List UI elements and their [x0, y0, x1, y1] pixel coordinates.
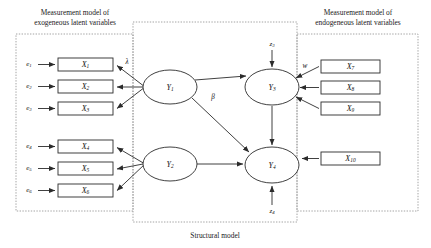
svg-text:e6: e6	[26, 186, 32, 194]
sem-path-diagram: Measurement model of exogeneous latent v…	[0, 0, 431, 248]
edge-y1-to-y3	[195, 76, 246, 80]
observed-box-x9[interactable]: X9	[321, 102, 380, 115]
title-exogenous-line2: exogeneous latent variables	[34, 18, 116, 27]
edges-y1-loadings	[117, 66, 145, 109]
label-e2-sub: 2	[29, 85, 32, 90]
edges-y2-loadings	[117, 148, 145, 191]
edges-error-to-indicator	[38, 65, 55, 191]
label-x2-sub: 2	[87, 85, 90, 91]
edge-y2-to-x4	[117, 148, 145, 165]
svg-text:z4: z4	[268, 207, 275, 215]
latent-ellipse-y3[interactable]: Y3	[245, 69, 299, 105]
label-x1-sub: 1	[87, 63, 90, 69]
edge-y1-to-x1	[117, 66, 145, 88]
observed-variable-boxes: X1 X2 X3 X4 X5 X6	[58, 58, 380, 197]
latent-ellipse-y2[interactable]: Y2	[143, 147, 197, 181]
label-x3-sub: 3	[86, 107, 90, 113]
observed-box-x7[interactable]: X7	[321, 60, 380, 73]
edge-x7-to-y3	[296, 67, 319, 79]
edge-x9-to-y3	[296, 97, 319, 109]
label-x9-sub: 9	[352, 107, 355, 113]
label-e3-sub: 3	[29, 107, 32, 112]
label-y3-sub: 3	[272, 86, 276, 92]
latent-ellipse-y1[interactable]: Y1	[143, 70, 197, 104]
svg-text:e4: e4	[26, 142, 32, 150]
observed-box-x6[interactable]: X6	[58, 184, 113, 197]
label-e5-sub: 5	[29, 167, 32, 172]
label-y2-sub: 2	[171, 163, 174, 169]
label-z4-sub: 4	[272, 210, 275, 215]
observed-box-x10[interactable]: X10	[321, 152, 380, 165]
label-e6-sub: 6	[29, 189, 32, 194]
region-titles: Measurement model of exogeneous latent v…	[34, 8, 401, 240]
observed-box-x4[interactable]: X4	[58, 140, 113, 153]
observed-box-x1[interactable]: X1	[58, 58, 113, 71]
label-w-coefficient: w	[303, 62, 308, 70]
edge-y1-to-x3	[117, 87, 145, 109]
label-x5-sub: 5	[87, 167, 90, 173]
observed-box-x2[interactable]: X2	[58, 80, 113, 93]
edges-endogenous-indicators	[296, 67, 319, 159]
observed-box-x3[interactable]: X3	[58, 102, 113, 115]
label-x7-sub: 7	[352, 65, 355, 71]
title-exogenous-line1: Measurement model of	[41, 8, 110, 17]
observed-box-x5[interactable]: X5	[58, 162, 113, 175]
label-x8-sub: 8	[352, 86, 355, 92]
label-y1-sub: 1	[171, 86, 174, 92]
label-z3-sub: 3	[272, 43, 275, 48]
observed-box-x8[interactable]: X8	[321, 81, 380, 94]
svg-text:e1: e1	[26, 60, 32, 68]
label-x4-sub: 4	[87, 145, 90, 151]
svg-text:e5: e5	[26, 164, 32, 172]
label-x10-sub: 10	[350, 157, 356, 163]
svg-text:e2: e2	[26, 82, 32, 90]
latent-ellipse-y4[interactable]: Y4	[245, 147, 299, 183]
label-x6-sub: 6	[87, 189, 90, 195]
svg-text:z3: z3	[268, 40, 275, 48]
edge-y1-to-y4	[192, 98, 249, 152]
title-endogenous-line2: endogeneous latent variables	[315, 18, 400, 27]
title-structural-model: Structural model	[190, 231, 239, 240]
label-e1-sub: 1	[29, 63, 31, 68]
edge-y2-to-x5	[117, 164, 143, 169]
label-lambda-coefficient: λ	[124, 58, 128, 66]
diagram-canvas: Measurement model of exogeneous latent v…	[0, 0, 431, 248]
label-e4-sub: 4	[29, 145, 32, 150]
label-beta-coefficient: β	[210, 93, 215, 101]
label-y4-sub: 4	[273, 164, 276, 170]
title-endogenous-line1: Measurement model of	[324, 8, 393, 17]
svg-text:e3: e3	[26, 104, 32, 112]
